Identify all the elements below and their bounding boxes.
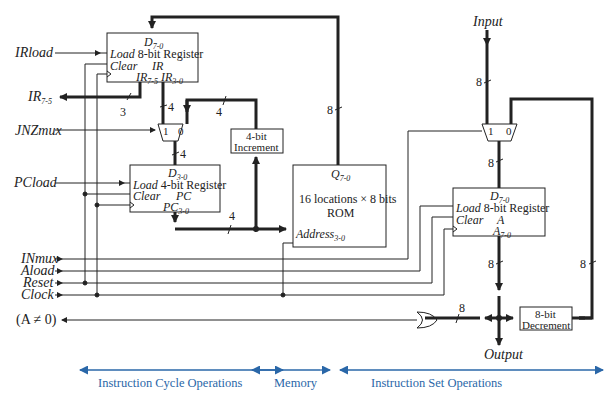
pc-q-label: PC3-0: [163, 201, 189, 216]
bus-width-or: 8: [459, 302, 465, 314]
a-q-label: A7-0: [493, 225, 511, 240]
pc-mux-in0: 0: [178, 126, 184, 137]
bus-width-a-out: 8: [488, 258, 494, 270]
or-gate: [417, 312, 437, 328]
bus-width-feedback: 8: [580, 258, 586, 270]
bus-width-input: 8: [476, 76, 482, 88]
pcload-label: PCload: [14, 176, 57, 190]
decrement-line2: Decrement: [522, 320, 570, 331]
clock-label: Clock: [21, 288, 54, 302]
bus-width-incr: 4: [216, 106, 222, 118]
section-instruction-cycle: Instruction Cycle Operations: [98, 377, 242, 390]
ir-q30-label: IR3-0: [161, 71, 183, 86]
bus-width-pc-out: 4: [229, 210, 235, 222]
ir-q75-label: IR7-5: [136, 71, 158, 86]
rom-title: ROM: [327, 207, 354, 219]
rom-address-label: Address3-0: [296, 228, 345, 243]
ir75-output-label: IR7-5: [28, 90, 52, 106]
a-clear-label: Clear: [456, 214, 483, 226]
increment-line2: Increment: [234, 142, 279, 153]
rom-q-label: Q7-0: [331, 168, 350, 183]
bus-width-pc-in: 4: [180, 148, 186, 160]
pc-clear-label: Clear: [133, 190, 160, 202]
section-memory: Memory: [274, 377, 317, 390]
a-mux-in1: 1: [488, 126, 494, 137]
section-instruction-set: Instruction Set Operations: [371, 377, 502, 390]
ir-clear-label: Clear: [110, 60, 137, 72]
a-nonzero-label: (A ≠ 0): [16, 313, 56, 327]
jnzmux-label: JNZmux: [15, 124, 62, 138]
bus-width-ir75: 3: [120, 106, 126, 118]
irload-label: IRload: [15, 46, 53, 60]
input-label: Input: [473, 15, 503, 29]
bus-width-ir30: 4: [168, 101, 174, 113]
a-mux-in0: 0: [506, 126, 512, 137]
bus-width-rom: 8: [327, 104, 333, 116]
output-label: Output: [484, 348, 523, 362]
datapath-diagram: IRload IR7-5 JNZmux PCload INmux Aload R…: [0, 0, 609, 399]
bus-width-a-in: 8: [488, 157, 494, 169]
rom-size-label: 16 locations × 8 bits: [299, 193, 396, 205]
pc-mux-in1: 1: [163, 126, 169, 137]
